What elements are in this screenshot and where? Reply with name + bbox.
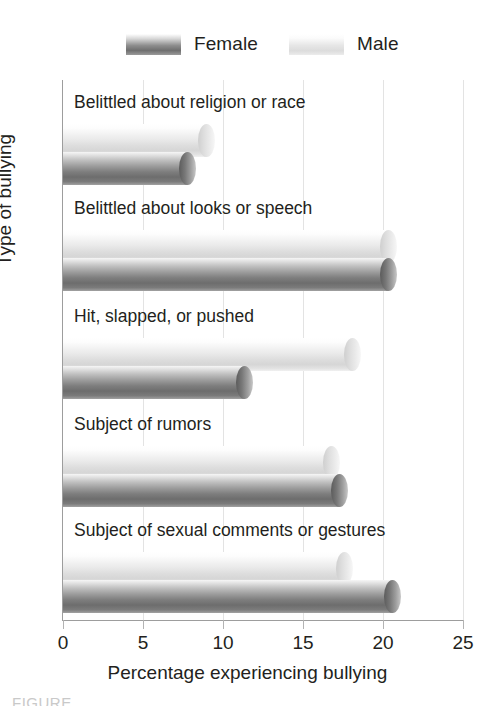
bar-female[interactable] (63, 474, 340, 507)
plot-area: Belittled about religion or race Belittl… (63, 80, 463, 620)
x-tick-25 (463, 620, 464, 629)
bar-body (63, 152, 188, 185)
category-label: Subject of sexual comments or gestures (74, 520, 385, 541)
category-group: Belittled about religion or race (63, 80, 463, 188)
bar-cap (331, 474, 348, 507)
y-axis-title: Type of bullying (0, 100, 16, 300)
x-axis-line (62, 620, 464, 621)
x-tick-label-0: 0 (58, 632, 69, 654)
x-tick-15 (303, 620, 304, 629)
legend-label-female: Female (194, 33, 258, 55)
bar-cap (236, 366, 253, 399)
male-swatch-icon (289, 34, 344, 55)
x-tick-label-15: 15 (292, 632, 313, 654)
bar-female[interactable] (63, 580, 393, 613)
bar-body (63, 366, 245, 399)
category-group: Subject of sexual comments or gestures (63, 514, 463, 620)
bar-cap (384, 580, 401, 613)
category-label: Subject of rumors (74, 414, 211, 435)
bar-cap (344, 338, 361, 371)
bar-cap (198, 124, 215, 157)
legend-item-male: Male (289, 33, 399, 55)
category-label: Hit, slapped, or pushed (74, 306, 254, 327)
category-group: Subject of rumors (63, 406, 463, 514)
x-tick-0 (63, 620, 64, 629)
figure-caption-partial: FIGURE (12, 694, 232, 706)
x-tick-label-10: 10 (212, 632, 233, 654)
category-group: Belittled about looks or speech (63, 188, 463, 296)
bar-body (63, 474, 340, 507)
bar-body (63, 258, 389, 291)
bar-cap (179, 152, 196, 185)
x-tick-label-20: 20 (372, 632, 393, 654)
x-axis-title: Percentage experiencing bullying (0, 662, 495, 684)
legend-label-male: Male (357, 33, 399, 55)
bar-female[interactable] (63, 366, 245, 399)
bar-female[interactable] (63, 258, 389, 291)
x-tick-20 (383, 620, 384, 629)
bar-body (63, 580, 393, 613)
female-swatch-icon (126, 34, 181, 55)
x-tick-label-25: 25 (452, 632, 473, 654)
chart-legend: Female Male (0, 33, 495, 63)
gridline-25 (463, 80, 464, 620)
x-tick-10 (223, 620, 224, 629)
legend-item-female: Female (126, 33, 258, 55)
x-tick-5 (143, 620, 144, 629)
category-label: Belittled about looks or speech (74, 198, 312, 219)
category-group: Hit, slapped, or pushed (63, 296, 463, 406)
x-tick-label-5: 5 (138, 632, 149, 654)
category-label: Belittled about religion or race (74, 92, 306, 113)
bar-cap (380, 258, 397, 291)
bar-female[interactable] (63, 152, 188, 185)
bullying-bar-chart: Female Male Belittled about religion or … (0, 0, 495, 706)
